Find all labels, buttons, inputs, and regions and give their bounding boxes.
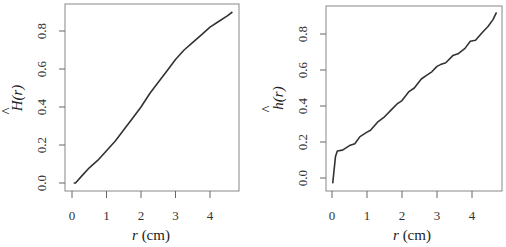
plot-right-xtick-label: 3 [434,208,441,223]
plot-left-x-axis: 0 1 2 3 4 [69,191,214,223]
plot-right: 0.0 0.2 0.4 0.6 0.8 0 1 2 3 4 r (cm) h(r… [259,6,502,244]
plot-left-frame [65,4,239,191]
plot-left-xtick-label: 2 [138,208,145,223]
plot-left-xtick-label: 1 [103,208,110,223]
plot-left-curve [74,12,233,183]
plot-left-xtick-label: 0 [69,208,76,223]
svg-text:^: ^ [0,107,15,114]
plot-right-xtick-label: 0 [329,208,336,223]
plot-left-xlabel: r (cm) [132,227,170,244]
plot-left-y-axis: 0.0 0.2 0.4 0.6 0.8 [34,23,65,191]
plot-left-ytick-label: 0.2 [34,137,49,153]
plot-right-frame [326,6,502,191]
plot-right-curve [333,12,497,183]
plot-left-ylabel: H(r) ^ [0,85,26,115]
plot-right-ylabel: h(r) ^ [259,86,287,112]
plot-left-xtick-label: 3 [172,208,179,223]
plot-left: 0.0 0.2 0.4 0.6 0.8 0 1 2 3 4 r (cm) H(r… [0,4,239,244]
plot-left-ytick-label: 0.6 [34,60,49,77]
plot-right-xtick-label: 2 [399,208,406,223]
plot-right-y-axis: 0.0 0.2 0.4 0.6 0.8 [295,26,326,186]
plot-right-xtick-label: 4 [469,208,476,223]
plot-right-ytick-label: 0.2 [295,134,310,150]
plot-right-ytick-label: 0.0 [295,170,310,186]
plot-left-ytick-label: 0.8 [34,23,49,39]
plot-right-x-axis: 0 1 2 3 4 [329,191,476,223]
plot-right-ytick-label: 0.6 [295,61,310,78]
svg-text:^: ^ [259,105,275,112]
plot-right-ytick-label: 0.8 [295,26,310,42]
plot-left-xtick-label: 4 [207,208,214,223]
chart-canvas: 0.0 0.2 0.4 0.6 0.8 0 1 2 3 4 r (cm) H(r… [0,0,506,247]
plot-left-ytick-label: 0.0 [34,175,49,191]
plot-right-xtick-label: 1 [364,208,371,223]
plot-right-xlabel: r (cm) [393,227,431,244]
plot-right-ytick-label: 0.4 [295,97,310,114]
plot-left-ytick-label: 0.4 [34,98,49,115]
